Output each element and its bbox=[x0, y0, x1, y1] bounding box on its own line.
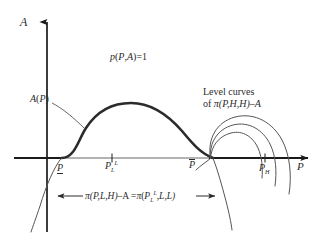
bottom-p-2-subscript: L bbox=[150, 197, 153, 203]
a-of-p-lower-right-branch bbox=[213, 158, 232, 230]
level-curves-line1: Level curves bbox=[203, 86, 261, 97]
bottom-minus-a: –A bbox=[118, 191, 129, 201]
a-of-p-leader-line bbox=[52, 103, 84, 128]
a-of-p-label: A(P) bbox=[30, 93, 49, 104]
level-curves-annotation: Level curves of π(P,H,H)–A bbox=[203, 86, 261, 109]
y-axis-label: A bbox=[20, 16, 27, 29]
level-curves-line2: of π(P,H,H)–A bbox=[203, 98, 261, 109]
level-curve-outer bbox=[210, 116, 291, 194]
p-l-l-subscript: L bbox=[111, 166, 114, 173]
tick-label-p-h: PH bbox=[259, 162, 270, 176]
x-axis-label: P bbox=[297, 160, 304, 172]
constraint-equals-one: =1 bbox=[136, 51, 147, 62]
constraint-equation-label: p(P,A)=1 bbox=[110, 51, 147, 62]
level-curves-args: (P,H,H) bbox=[219, 98, 250, 109]
p-lower-symbol: P bbox=[57, 163, 63, 174]
level-curve-inner bbox=[211, 132, 263, 178]
bottom-rest-2: ,L,L) bbox=[157, 191, 175, 201]
tick-label-p-lower: P bbox=[57, 162, 63, 174]
p-bar-symbol: P bbox=[189, 159, 195, 170]
figure-canvas: A p(P,A)=1 A(P) Level curves of π(P,H,H)… bbox=[0, 0, 320, 240]
p-l-l-superscript: L bbox=[115, 159, 118, 166]
level-curves-a: A bbox=[255, 98, 261, 109]
p-bar-leader-hook bbox=[196, 159, 211, 171]
level-curves-of: of bbox=[203, 98, 211, 109]
diagram-svg bbox=[0, 0, 320, 240]
bottom-equation-label: π(P,L,H)–A =π(PLL,L,L) bbox=[85, 190, 175, 204]
tick-label-p-bar: P bbox=[189, 159, 195, 170]
bottom-args-1: (P,L,H) bbox=[90, 191, 118, 201]
tick-label-p-l-l: PLL bbox=[105, 160, 118, 174]
a-of-p-close: ) bbox=[46, 93, 49, 104]
p-h-subscript: H bbox=[265, 168, 269, 175]
a-of-p-curve bbox=[62, 103, 214, 158]
